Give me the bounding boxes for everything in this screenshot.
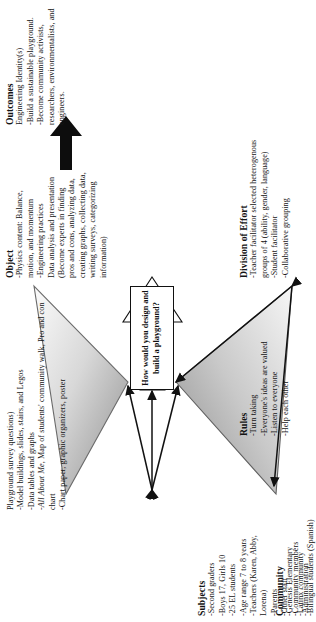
- connector-subjects-tools: [128, 386, 152, 490]
- object-body: -Physics content: Balance, motion, and m…: [15, 172, 109, 278]
- outcomes-block: Outcomes Engineering Identity(s) -Build …: [4, 7, 67, 125]
- community-body: -Genesis Elementary -Latinx community -B…: [285, 506, 315, 616]
- rules-body: -Turn taking -Everyone's ideas are value…: [249, 312, 291, 436]
- community-title: Community: [274, 506, 285, 616]
- activity-system-diagram: How would you design and build a playgro…: [0, 0, 315, 622]
- division-body: -Teacher facilitator selected heterogeno…: [249, 118, 291, 278]
- subjects-title: Subjects: [196, 520, 207, 616]
- central-question-box: How would you design and build a playgro…: [130, 286, 174, 390]
- connector-subjects-community: [152, 386, 178, 490]
- object-block: Object -Physics content: Balance, motion…: [4, 172, 109, 278]
- community-block: Community -Genesis Elementary -Latinx co…: [274, 506, 315, 616]
- outcomes-body: Engineering Identity(s) -Build a sustain…: [15, 7, 67, 125]
- tools-body: Playground survey questions) -Model buil…: [6, 295, 68, 510]
- division-block: Division of Effort -Teacher facilitator …: [238, 118, 291, 278]
- division-title: Division of Effort: [238, 118, 249, 278]
- rules-title: Rules: [238, 312, 249, 436]
- central-question-text: How would you design and build a playgro…: [141, 290, 162, 386]
- tools-block: Playground survey questions) -Model buil…: [6, 295, 68, 510]
- figure-rotator: How would you design and build a playgro…: [0, 0, 315, 622]
- object-title: Object: [4, 172, 15, 278]
- tools-italic-title: All About Me: [37, 463, 46, 507]
- rules-block: Rules -Turn taking -Everyone's ideas are…: [238, 312, 291, 436]
- outcomes-title: Outcomes: [4, 7, 15, 125]
